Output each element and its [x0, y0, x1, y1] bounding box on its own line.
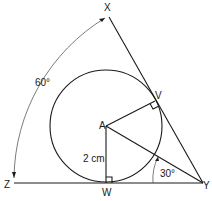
label-w: W	[102, 187, 112, 198]
radius-av	[106, 101, 155, 126]
label-v: V	[155, 90, 162, 101]
label-z: Z	[4, 179, 10, 190]
label-radius: 2 cm	[83, 153, 105, 164]
arrow-head-30	[155, 157, 159, 161]
right-angle-v	[150, 104, 158, 110]
label-angle-60: 60°	[35, 77, 50, 88]
label-x: X	[104, 2, 111, 13]
label-y: Y	[203, 180, 210, 191]
label-angle-30: 30°	[160, 168, 175, 179]
arrow-head-z	[12, 172, 16, 178]
geometry-diagram: X Y Z A V W 2 cm 60° 30°	[0, 0, 212, 201]
label-a: A	[99, 120, 106, 131]
line-ay	[106, 126, 203, 183]
